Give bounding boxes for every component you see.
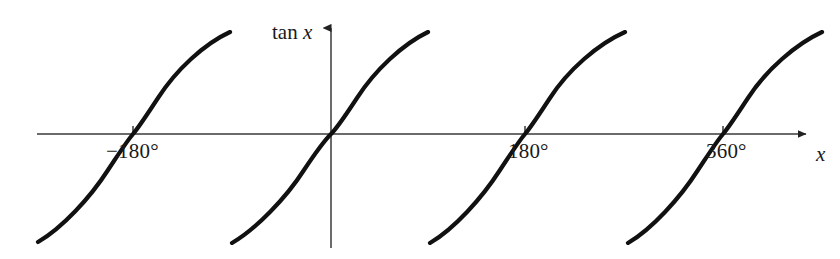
tangent-branch-two xyxy=(628,32,822,243)
x-tick-label-180: 180° xyxy=(508,141,549,162)
x-axis-label: x xyxy=(816,144,825,165)
tangent-curve xyxy=(38,32,822,243)
y-axis-label-function: tan xyxy=(272,20,303,44)
plot-canvas xyxy=(0,0,840,259)
y-axis-label: tan x xyxy=(272,22,312,43)
tangent-branch-zero xyxy=(232,32,428,243)
x-tick-label-minus-180: −180° xyxy=(106,141,159,162)
tangent-branch-one xyxy=(430,32,625,243)
x-tick-label-360: 360° xyxy=(706,141,747,162)
tangent-function-figure: tan x x −180° 180° 360° xyxy=(0,0,840,259)
tangent-branch-minus-one xyxy=(38,32,230,242)
y-axis-label-variable: x xyxy=(303,20,312,44)
